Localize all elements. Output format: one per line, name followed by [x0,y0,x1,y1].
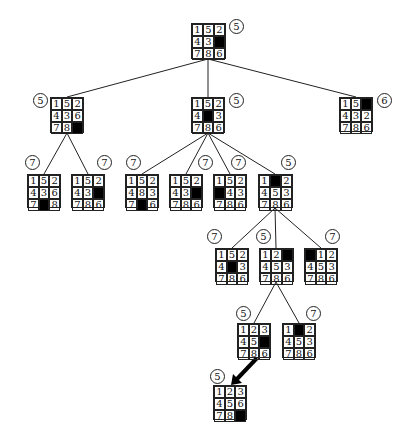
tree-edge [275,208,276,248]
tile: 6 [235,398,246,410]
tile: 3 [282,261,293,273]
tile: 2 [271,249,282,261]
tile: 1 [170,175,181,187]
tile: 2 [213,98,224,110]
tile: 8 [294,348,305,360]
blank-tile [305,249,316,261]
blank-tile [191,187,202,199]
tile: 3 [281,187,292,199]
puzzle-state-grid: 12453786 [282,323,316,358]
cost-badge: 7 [231,155,246,170]
puzzle-state-grid: 15243786 [213,174,247,208]
puzzle-state-grid: 15432786 [339,97,373,132]
cost-badge: 5 [281,155,296,170]
tile: 2 [304,324,315,336]
tile: 3 [147,187,158,199]
cost-badge: 5 [33,93,48,108]
tile: 2 [326,249,337,261]
tile: 5 [227,249,238,261]
tree-edges [0,0,409,443]
tile: 7 [283,348,294,360]
tile: 8 [181,199,192,211]
tile: 5 [249,336,260,348]
tile: 4 [259,187,270,199]
tile: 4 [28,187,39,199]
tile: 3 [304,336,315,348]
tile: 1 [340,98,351,110]
tile: 6 [281,199,292,211]
puzzle-state-grid: 15243786 [191,23,226,59]
tile: 3 [181,187,192,199]
tile: 4 [305,261,316,273]
tile: 1 [260,249,271,261]
tile: 2 [191,175,202,187]
tile: 1 [238,324,249,336]
tile: 2 [214,24,225,36]
tile: 7 [192,48,203,60]
tile: 2 [235,175,246,187]
tile: 8 [62,122,73,134]
tile: 7 [126,199,137,211]
tile: 5 [271,261,282,273]
tile: 6 [72,110,83,122]
tile: 6 [282,273,293,285]
tile: 5 [62,98,73,110]
tile: 1 [283,324,294,336]
cost-badge: 5 [236,306,251,321]
tile: 6 [213,122,224,134]
cost-badge: 6 [377,93,392,108]
blank-tile [93,187,104,199]
tile: 8 [316,273,327,285]
puzzle-state-grid: 12453786 [304,248,338,282]
blank-tile [361,98,372,110]
tile: 6 [214,48,225,60]
blank-tile [235,410,246,422]
tile: 6 [259,348,270,360]
tile: 7 [216,273,227,285]
cost-badge: 7 [198,155,213,170]
tile: 2 [72,98,83,110]
tile: 1 [214,386,225,398]
tile: 1 [126,175,137,187]
tile: 4 [283,336,294,348]
tile: 7 [192,122,203,134]
blank-tile [259,336,270,348]
tile: 6 [93,199,104,211]
tile: 8 [203,122,214,134]
tile: 4 [192,110,203,122]
tile: 4 [72,187,83,199]
tile: 8 [49,199,60,211]
tile: 1 [216,249,227,261]
tile: 5 [181,175,192,187]
tile: 8 [83,199,94,211]
tile: 5 [203,98,214,110]
tile: 5 [351,98,362,110]
tile: 8 [271,273,282,285]
tile: 4 [51,110,62,122]
tile: 3 [83,187,94,199]
tile: 4 [238,336,249,348]
tile: 7 [72,199,83,211]
tile: 1 [192,24,203,36]
cost-badge: 7 [306,306,321,321]
tile: 8 [225,199,236,211]
tree-edge [142,133,208,174]
tile: 6 [49,187,60,199]
tree-edge [67,133,88,174]
tree-edge [208,59,356,97]
tile: 8 [225,410,236,422]
tile: 4 [214,398,225,410]
tree-edge [44,133,67,174]
tile: 8 [270,199,281,211]
tile: 8 [351,122,362,134]
tile: 1 [214,175,225,187]
tree-edge [254,282,276,323]
tile: 7 [170,199,181,211]
tile: 3 [62,110,73,122]
tile: 3 [235,187,246,199]
tile: 2 [93,175,104,187]
tile: 8 [137,187,148,199]
tile: 2 [147,175,158,187]
puzzle-state-grid: 15243786 [169,174,203,208]
puzzle-state-grid: 15243678 [50,97,84,133]
